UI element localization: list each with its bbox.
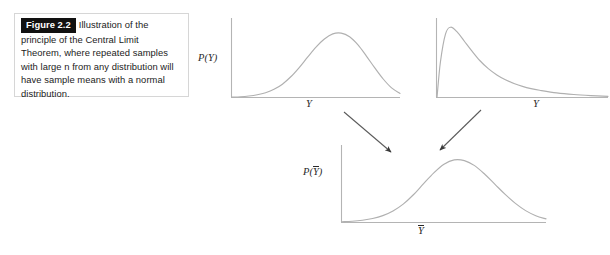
y-axis-label-probability-of-y: P(Y): [198, 52, 217, 63]
x-axis-label-y-normal: Y: [306, 98, 312, 109]
normal-distribution-curve: [232, 33, 400, 97]
x-axis-label-y-bar: Y: [418, 225, 424, 237]
x-axis-label-y-skewed: Y: [533, 98, 539, 109]
y-axis-label-probability-of-y-bar: P(Y): [303, 166, 322, 178]
skewed-distribution-curve: [437, 27, 608, 97]
figure-caption-text: Figure 2.2Illustration of the principle …: [21, 18, 181, 100]
x-bar-overline-glyph: Y: [418, 225, 424, 237]
figure-caption-box: Figure 2.2Illustration of the principle …: [14, 13, 189, 97]
chart-panel-source-skewed: [418, 12, 610, 117]
chart-panel-sampling-distribution: [300, 140, 550, 250]
chart-panel-source-normal: [196, 12, 406, 117]
sample-mean-distribution-curve: [342, 160, 546, 222]
figure-number-tag: Figure 2.2: [21, 18, 76, 33]
